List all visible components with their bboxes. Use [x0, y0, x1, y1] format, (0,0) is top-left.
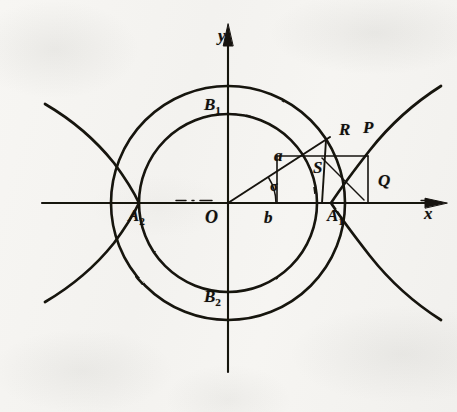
label-Q: Q [378, 172, 390, 189]
label-B1: B1 [204, 96, 221, 117]
angle-label-sigma: σ [270, 180, 278, 194]
label-a: a [274, 147, 283, 164]
label-A1: A1 [327, 207, 344, 228]
label-P: P [363, 119, 373, 136]
y-axis-label: y [218, 27, 226, 44]
label-S: S [313, 159, 322, 176]
figure-canvas: y x O b a σ B1 B2 A1 A2 R P S Q [0, 0, 457, 412]
origin-label: O [205, 208, 218, 226]
label-b: b [264, 209, 273, 226]
vertical-dropline-from-R [322, 140, 326, 203]
label-B2: B2 [204, 288, 221, 309]
label-R: R [339, 121, 350, 138]
axes-group [42, 34, 438, 372]
hyperbola-construction-svg [0, 0, 457, 412]
label-A2: A2 [128, 207, 145, 228]
x-axis-label: x [424, 205, 433, 222]
